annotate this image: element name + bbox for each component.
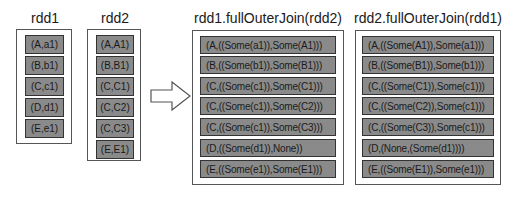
panel-title: rdd2 [88,10,142,26]
list-item: (C,C2) [96,98,134,117]
list-item: (C,((Some(C3)),Some(c1))) [362,118,494,136]
panel-title: rdd1.fullOuterJoin(rdd2) [192,10,344,26]
list-item: (C,C3) [96,119,134,138]
list-item: (E,e1) [25,119,64,138]
list-item: (D,(None,(Some(d1)))) [362,139,494,157]
panel-title: rdd1 [16,10,74,26]
list-item: (C,((Some(c1)),Some(C2))) [200,97,336,115]
list-item: (B,B1) [96,56,134,75]
list-item: (C,((Some(c1)),Some(C1))) [200,77,336,95]
list-item: (E,((Some(E1)),Some(e1))) [362,160,494,178]
list-item: (A,((Some(a1)),Some(A1))) [200,36,336,54]
list-item: (B,((Some(b1)),Some(B1))) [200,56,336,74]
list-item: (D,((Some(d1)),None)) [200,139,336,157]
list-item: (A,((Some(A1)),Some(a1))) [362,36,494,54]
list-item: (B,((Some(B1)),Some(b1))) [362,56,494,74]
list-item: (C,c1) [25,77,64,96]
list-item: (C,((Some(C2)),Some(c1))) [362,97,494,115]
list-item: (E,((Some(e1)),Some(E1))) [200,160,336,178]
list-item: (C,((Some(C1)),Some(c1))) [362,77,494,95]
panel-title: rdd2.fullOuterJoin(rdd1) [354,10,502,26]
right-arrow-icon [150,80,192,112]
list-item: (B,b1) [25,56,64,75]
list-item: (D,d1) [25,98,64,117]
list-item: (E,E1) [96,140,134,159]
list-item: (C,((Some(c1)),Some(C3))) [200,118,336,136]
list-item: (A,a1) [25,35,64,54]
list-item: (A,A1) [96,35,134,54]
list-item: (C,C1) [96,77,134,96]
